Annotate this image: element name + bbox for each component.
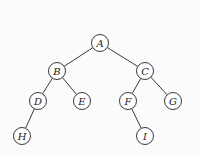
tree-node-c: C (137, 63, 154, 80)
tree-node-g: G (165, 93, 182, 110)
tree-node-d: D (30, 93, 47, 110)
node-label: B (52, 66, 60, 77)
tree-node-b: B (49, 63, 66, 80)
edge-c-f (132, 78, 141, 93)
tree-node-e: E (74, 93, 91, 110)
node-label: E (77, 96, 86, 107)
tree-node-i: I (137, 128, 154, 145)
edge-c-g (151, 77, 167, 95)
node-label: G (169, 96, 177, 107)
edge-a-b (64, 48, 93, 67)
tree-nodes: ABCDEFGHI (14, 35, 182, 145)
tree-node-h: H (14, 128, 31, 145)
edge-d-h (26, 109, 35, 129)
node-label: A (95, 38, 103, 49)
node-label: F (124, 96, 133, 107)
edge-b-e (62, 78, 76, 95)
node-label: D (33, 96, 42, 107)
node-label: C (141, 66, 149, 77)
tree-node-f: F (120, 93, 137, 110)
edge-f-i (132, 109, 142, 129)
edge-a-c (107, 47, 138, 66)
tree-edges (26, 47, 168, 128)
node-label: H (17, 131, 27, 142)
edge-b-d (43, 78, 53, 94)
binary-tree-diagram: ABCDEFGHI (0, 0, 200, 155)
tree-node-a: A (92, 35, 109, 52)
